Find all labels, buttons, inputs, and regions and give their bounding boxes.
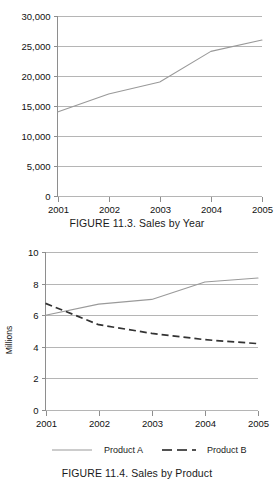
chart2-y-axis-title: Millions	[4, 326, 14, 354]
chart1-y-label-3: 15,000	[21, 101, 50, 112]
figure-11-4-caption: FIGURE 11.4. Sales by Product	[0, 467, 274, 479]
sales-by-year-line-chart: 05,00010,00015,00020,00025,00030,000 200…	[0, 0, 274, 215]
chart1-x-label-0: 2001	[48, 204, 69, 215]
chart1-y-tick-labels: 05,00010,00015,00020,00025,00030,000	[21, 11, 50, 202]
chart1-y-label-4: 20,000	[21, 71, 50, 82]
chart2-y-tick-marks	[42, 253, 46, 411]
figure-11-3-caption: FIGURE 11.3. Sales by Year	[0, 217, 274, 229]
chart1-gridlines	[58, 17, 263, 197]
sales-by-product-line-chart: Millions 0246810 20012002200320042005	[0, 240, 274, 440]
chart1-x-label-4: 2005	[252, 204, 273, 215]
chart2-x-tick-labels: 20012002200320042005	[36, 418, 269, 429]
chart2-y-label-5: 10	[28, 247, 39, 258]
figures-page: 05,00010,00015,00020,00025,00030,000 200…	[0, 0, 274, 486]
legend-label-product-a: Product A	[104, 445, 143, 455]
figure-11-4-plot-area: Millions 0246810 20012002200320042005	[0, 240, 274, 440]
chart2-data-line-product-a	[46, 278, 259, 315]
chart1-x-label-2: 2003	[150, 204, 171, 215]
chart1-y-label-0: 0	[45, 191, 50, 202]
chart2-y-tick-labels: 0246810	[28, 247, 39, 416]
chart2-y-label-0: 0	[33, 405, 38, 416]
chart1-x-label-3: 2004	[201, 204, 222, 215]
legend-label-product-b: Product B	[207, 445, 247, 455]
chart2-y-label-4: 8	[33, 279, 38, 290]
chart2-x-label-1: 2002	[89, 418, 110, 429]
chart2-y-label-3: 6	[33, 310, 38, 321]
figure-11-3: 05,00010,00015,00020,00025,00030,000 200…	[0, 0, 274, 240]
chart1-y-label-5: 25,000	[21, 41, 50, 52]
figure-11-3-plot-area: 05,00010,00015,00020,00025,00030,000 200…	[0, 0, 274, 215]
chart2-x-label-4: 2005	[248, 418, 269, 429]
chart1-y-label-2: 10,000	[21, 131, 50, 142]
figure-11-4: Millions 0246810 20012002200320042005	[0, 240, 274, 486]
chart2-gridlines	[46, 253, 259, 411]
chart2-x-label-0: 2001	[36, 418, 57, 429]
chart1-x-label-1: 2002	[99, 204, 120, 215]
chart1-y-label-1: 5,000	[27, 161, 51, 172]
chart2-x-label-2: 2003	[142, 418, 163, 429]
chart1-y-label-6: 30,000	[21, 11, 50, 22]
chart2-x-label-3: 2004	[195, 418, 216, 429]
chart2-y-label-1: 2	[33, 373, 38, 384]
figure-11-4-legend: Product A Product B	[0, 442, 274, 458]
chart2-x-tick-marks	[47, 411, 259, 416]
chart1-x-tick-labels: 20012002200320042005	[48, 204, 273, 215]
chart2-y-label-2: 4	[33, 342, 38, 353]
chart1-x-tick-marks	[59, 197, 263, 202]
chart2-data-line-product-b	[46, 303, 259, 343]
chart1-y-tick-marks	[54, 17, 58, 197]
